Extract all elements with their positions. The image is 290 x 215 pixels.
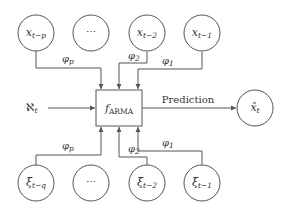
node-ellipsis-bottom-label: ⋯ (86, 176, 96, 187)
top-phi-1-label: φ1 (162, 55, 174, 68)
node-ellipsis-top-label: ⋯ (86, 26, 96, 37)
bottom-phi-1-label: φ1 (162, 137, 174, 150)
input-label: ℵt (26, 101, 38, 115)
top-nodes: xt−p ⋯ xt−2 xt−1 (18, 15, 220, 51)
bottom-phi-p-label: φp (62, 140, 74, 153)
bottom-connectors (36, 127, 202, 165)
top-phi-2-label: φ2 (128, 50, 140, 63)
top-phi-p-label: φp (62, 53, 74, 66)
bottom-nodes: ξt−q ⋯ ξt−2 ξt−1 (18, 165, 220, 201)
edge-phi-1-top (138, 52, 202, 89)
prediction-label: Prediction (162, 94, 215, 105)
arma-diagram: fARMA ℵt Prediction x̂t xt−p ⋯ xt−2 xt−1… (0, 0, 290, 215)
top-connectors (36, 51, 202, 89)
